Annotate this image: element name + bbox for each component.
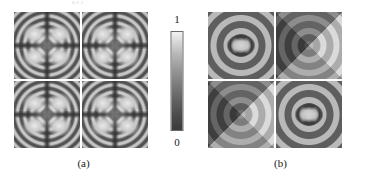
panel-grid-b	[208, 12, 342, 148]
colorbar-a-min-label: 0	[163, 137, 191, 148]
panel-grid-a	[14, 12, 148, 148]
subfigure-a: 1 0 (a)	[0, 0, 195, 181]
colorbar-a: 1 0	[163, 14, 191, 148]
caption-b: (b)	[195, 157, 390, 169]
colorbar-a-max-label: 1	[163, 14, 191, 25]
caption-a-text: (a)	[77, 157, 89, 169]
panel-b-bottom-right	[276, 81, 342, 148]
caption-a: (a)	[0, 157, 195, 169]
subfigure-b: π −π (b)	[195, 0, 390, 181]
panel-a-top-left	[14, 12, 80, 79]
panel-a-top-right	[82, 12, 148, 79]
caption-b-text: (b)	[274, 157, 287, 169]
panel-b-top-right	[276, 12, 342, 79]
panel-a-bottom-left	[14, 81, 80, 148]
figure-root: 8.2.3 1 0 (a) π −π	[0, 0, 390, 181]
colorbar-a-gradient	[171, 31, 184, 131]
panel-b-bottom-left	[208, 81, 274, 148]
panel-b-top-left	[208, 12, 274, 79]
panel-a-bottom-right	[82, 81, 148, 148]
